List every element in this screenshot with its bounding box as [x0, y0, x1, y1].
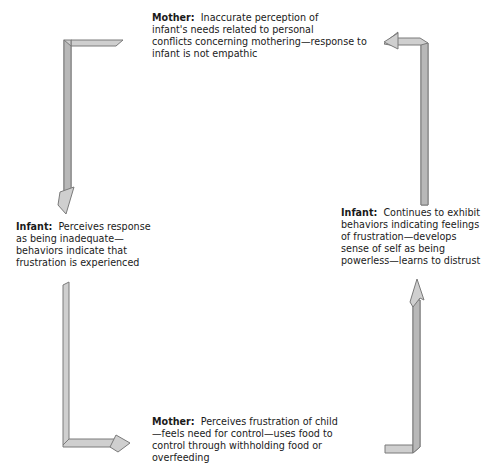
node-line: Perceives frustration of child [201, 416, 338, 427]
node-role: Mother: [152, 416, 195, 427]
node-line: infant is not empathic [152, 48, 257, 59]
arrow-left-to-bottom [63, 282, 130, 452]
node-infant-right: Infant: Continues to exhibit behaviors i… [341, 207, 480, 267]
arrow-bottom-to-right [385, 279, 424, 453]
node-role: Infant: [16, 221, 52, 232]
node-line: as being inadequate— [16, 233, 124, 244]
node-line: Continues to exhibit [383, 207, 480, 218]
node-line: Inaccurate perception of [201, 12, 319, 23]
node-line: frustration is experienced [16, 257, 139, 268]
node-line: powerless—learns to distrust [341, 255, 480, 266]
node-line: of frustration—develops [341, 231, 456, 242]
node-line: behaviors indicate that [16, 245, 127, 256]
node-infant-left: Infant: Perceives response as being inad… [16, 221, 151, 269]
node-mother-top: Mother: Inaccurate perception of infant'… [152, 12, 367, 60]
node-line: Perceives response [58, 221, 150, 232]
arrow-right-to-top [384, 32, 428, 205]
arrow-top-to-left [58, 40, 123, 214]
node-line: —feels need for control—uses food to [152, 428, 333, 439]
node-line: behaviors indicating feelings [341, 219, 479, 230]
node-line: overfeeding [152, 452, 210, 463]
node-line: conflicts concerning mothering—response … [152, 36, 367, 47]
node-mother-bottom: Mother: Perceives frustration of child —… [152, 416, 338, 464]
node-line: control through withholding food or [152, 440, 322, 451]
node-line: sense of self as being [341, 243, 445, 254]
node-role: Infant: [341, 207, 377, 218]
node-line: infant's needs related to personal [152, 24, 314, 35]
node-role: Mother: [152, 12, 195, 23]
